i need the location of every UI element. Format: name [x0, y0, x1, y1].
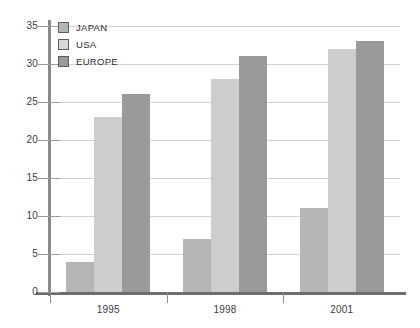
x-axis-tick	[167, 292, 168, 303]
y-axis-tick-label: 5	[10, 248, 38, 259]
y-axis-tick-label: 35	[10, 20, 38, 31]
y-axis-tick-label: 10	[10, 210, 38, 221]
legend-label-europe: EUROPE	[76, 56, 118, 67]
y-axis-tick	[38, 140, 60, 141]
chart-legend: JAPANUSAEUROPE	[58, 19, 118, 70]
y-axis-tick	[38, 178, 60, 179]
bar-usa-1995	[94, 117, 122, 292]
bar-europe-1998	[239, 56, 267, 292]
x-axis-label-2001: 2001	[307, 304, 377, 315]
y-axis-tick-label: 30	[10, 58, 38, 69]
y-axis-tick-label: 0	[10, 286, 38, 297]
bar-japan-1998	[183, 239, 211, 292]
bar-europe-1995	[122, 94, 150, 292]
x-axis-label-1998: 1998	[190, 304, 260, 315]
y-axis-tick	[38, 64, 60, 65]
y-axis-tick-label: 15	[10, 172, 38, 183]
legend-item-usa: USA	[58, 36, 118, 53]
x-axis-label-1995: 1995	[73, 304, 143, 315]
bar-europe-2001	[356, 41, 384, 292]
y-axis-tick-label: 25	[10, 96, 38, 107]
y-axis-tick	[38, 254, 60, 255]
y-axis-tick	[38, 26, 60, 27]
legend-swatch-europe	[58, 56, 69, 67]
bar-usa-1998	[211, 79, 239, 292]
x-axis-tick	[283, 292, 284, 303]
legend-swatch-japan	[58, 22, 69, 33]
y-axis-tick	[38, 292, 60, 293]
legend-swatch-usa	[58, 39, 69, 50]
y-axis-labels: 05101520253035	[4, 0, 38, 328]
bar-chart: 05101520253035 199519982001 JAPANUSAEURO…	[0, 0, 420, 328]
bar-usa-2001	[328, 49, 356, 292]
y-axis-tick	[38, 216, 60, 217]
bar-japan-2001	[300, 208, 328, 292]
y-axis-tick-label: 20	[10, 134, 38, 145]
x-axis-tick	[50, 292, 51, 303]
legend-item-japan: JAPAN	[58, 19, 118, 36]
bar-japan-1995	[66, 262, 94, 292]
legend-label-usa: USA	[76, 39, 96, 50]
legend-item-europe: EUROPE	[58, 53, 118, 70]
y-axis-tick	[38, 102, 60, 103]
legend-label-japan: JAPAN	[76, 22, 107, 33]
x-axis-line	[36, 292, 406, 295]
